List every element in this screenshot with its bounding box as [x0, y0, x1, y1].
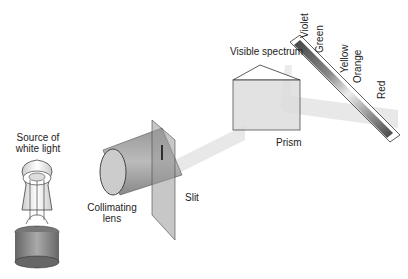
- lens-label-line1: Collimating: [82, 202, 142, 213]
- collimating-lens-label: Collimating lens: [82, 202, 142, 224]
- spectrum-label-violet: Violet: [299, 13, 310, 38]
- source-label-line1: Source of: [6, 132, 70, 143]
- light-source-bulb: [15, 160, 59, 268]
- spectrum-label-yellow: Yellow: [339, 44, 350, 73]
- lens-label-line2: lens: [82, 213, 142, 224]
- spectrum-label-orange: Orange: [352, 50, 363, 83]
- source-label: Source of white light: [6, 132, 70, 154]
- spectrum-label-red: Red: [376, 81, 387, 99]
- spectrum-label-green: Green: [314, 25, 325, 53]
- source-label-line2: white light: [6, 143, 70, 154]
- visible-spectrum-label: Visible spectrum: [230, 46, 303, 57]
- slit-label: Slit: [185, 192, 199, 203]
- slit-plate: [152, 120, 175, 240]
- prism-label: Prism: [276, 137, 302, 148]
